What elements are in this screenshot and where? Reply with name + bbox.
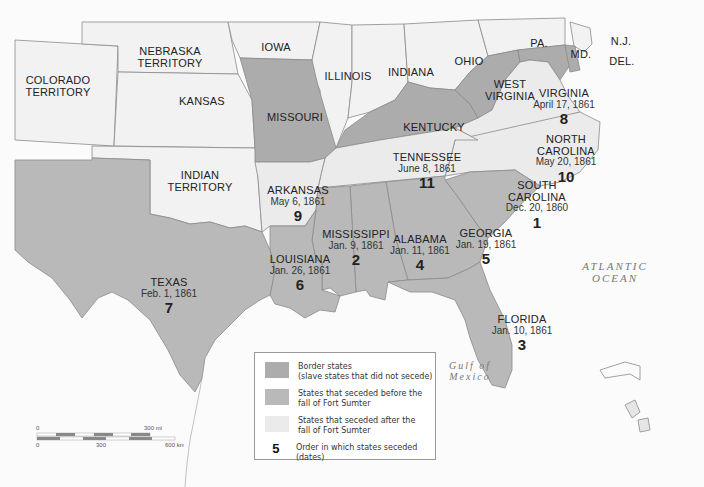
svg-text:600 km: 600 km [165,442,184,448]
legend-item-seceded-after: States that seceded after the fall of Fo… [265,416,415,436]
label-atlantic-ocean: ATLANTIC OCEAN [582,260,648,284]
label-md: MD. [571,49,592,61]
label-pa: PA. [530,38,548,50]
order-symbol: 5 [265,441,287,456]
label-ohio: OHIO [455,56,484,68]
svg-text:0: 0 [36,425,40,431]
label-south-carolina: SOUTH CAROLINA Dec. 20, 1860 1 [506,180,568,230]
svg-text:300 mi: 300 mi [144,425,162,431]
label-kentucky: KENTUCKY [403,122,465,134]
legend-item-order: 5 Order in which states seceded (dates) [265,441,435,463]
label-georgia: GEORGIA Jan. 19, 1861 5 [456,228,517,267]
label-nj: N.J. [611,36,631,48]
svg-text:0: 0 [36,442,40,448]
seceded-after-swatch [265,416,289,432]
label-missouri: MISSOURI [267,112,323,124]
label-gulf-of-mexico: Gulf of Mexico [449,360,491,382]
label-florida: FLORIDA Jan. 10, 1861 3 [492,314,553,353]
label-indian-territory: INDIAN TERRITORY [168,170,233,193]
legend-item-border-states: Border states (slave states that did not… [265,362,432,382]
svg-text:300: 300 [96,442,107,448]
label-north-carolina: NORTH CAROLINA May 20, 1861 10 [536,134,597,184]
label-nebraska-territory: NEBRASKA TERRITORY [138,46,203,69]
label-kansas: KANSAS [179,96,225,108]
label-iowa: IOWA [261,42,291,54]
legend-item-seceded-before: States that seceded before the fall of F… [265,389,422,409]
label-virginia: VIRGINIA April 17, 1861 8 [533,88,595,127]
scale-bar-graphic: 0 300 mi 0 300 600 km [34,424,184,450]
seceded-before-swatch [265,389,289,405]
map-legend: Border states (slave states that did not… [254,352,436,460]
label-colorado-territory: COLORADO TERRITORY [26,75,91,98]
border-states-swatch [265,362,289,378]
label-tennessee: TENNESSEE June 8, 1861 11 [393,152,461,191]
label-arkansas: ARKANSAS May 6, 1861 9 [267,185,329,224]
label-indiana: INDIANA [388,67,434,79]
label-alabama: ALABAMA Jan. 11, 1861 4 [390,234,450,273]
label-texas: TEXAS Feb. 1, 1861 7 [141,277,197,316]
label-mississippi: MISSISSIPPI Jan. 9, 1861 2 [322,229,390,268]
label-illinois: ILLINOIS [325,71,372,83]
label-del: DEL. [609,56,634,68]
label-louisiana: LOUISIANA Jan. 26, 1861 6 [270,254,331,293]
label-west-virginia: WEST VIRGINIA [485,79,535,102]
